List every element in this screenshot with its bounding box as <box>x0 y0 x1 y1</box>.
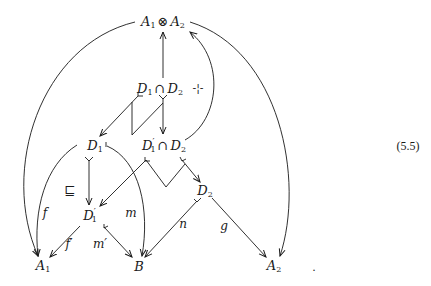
edge-d1-to-b <box>107 146 145 256</box>
edge-tensor-to-a2 <box>190 22 289 256</box>
node-b: B <box>134 260 144 273</box>
node-d2: D2 <box>197 184 213 199</box>
d1p-sub: 1 <box>92 215 97 224</box>
a1-sub: 1 <box>45 265 50 274</box>
mono-tail-d2-b <box>194 198 201 202</box>
label-g: g <box>220 219 228 233</box>
d1-base: D <box>87 138 97 153</box>
sqsubseteq-symbol: ⊑ <box>64 183 75 198</box>
label-f: f <box>43 206 47 220</box>
mono-tail-d1-d1p <box>85 157 93 161</box>
meet-top-right-sub: 2 <box>178 88 183 97</box>
meet-mid-operator: ∩ <box>156 138 171 153</box>
meet-mid-right-sub: 2 <box>181 145 186 154</box>
tensor-right: A <box>170 14 179 29</box>
a1-base: A <box>36 258 45 273</box>
label-n: n <box>179 217 187 231</box>
d2-sub: 2 <box>208 190 213 199</box>
a2-sub: 2 <box>276 265 281 274</box>
mono-tail-d1p-b <box>104 224 108 228</box>
tensor-operator: ⊗ <box>156 14 171 29</box>
edge-lower-zigzag <box>146 160 185 187</box>
label-m: m <box>125 206 136 220</box>
meet-top-right: D <box>167 81 177 96</box>
label-f-prime: f′ <box>65 237 72 251</box>
edge-meetmid-to-d2 <box>182 160 200 182</box>
trailing-period: . <box>313 260 316 275</box>
meet-top-operator: ∩ <box>153 81 168 96</box>
meet-mid-left-sub: 1 <box>150 145 155 154</box>
d1-sub: 1 <box>98 145 103 154</box>
node-a2: A2 <box>267 259 281 274</box>
node-meet-mid: D′1∩D2 <box>142 138 186 154</box>
node-tensor: A1⊗A2 <box>141 15 185 30</box>
a2-base: A <box>267 258 276 273</box>
meet-top-left: D <box>137 81 147 96</box>
pullback-mark: -¦- <box>192 82 203 95</box>
meet-top-left-sub: 1 <box>147 88 152 97</box>
node-meet-top: D1∩D2 <box>137 82 183 97</box>
equation-number: (5.5) <box>397 139 420 154</box>
tensor-left: A <box>141 14 150 29</box>
mono-tail-meetmid-d2 <box>180 157 186 161</box>
edge-meetmid-to-d1p <box>100 160 146 206</box>
edge-d2-to-b <box>145 201 197 257</box>
label-m-prime: m′ <box>93 237 107 251</box>
edge-d1p-to-b <box>104 227 132 257</box>
b-base: B <box>134 259 144 274</box>
node-d1: D1 <box>87 139 103 154</box>
meet-mid-right: D <box>170 138 180 153</box>
d2-base: D <box>197 183 207 198</box>
node-a1: A1 <box>36 259 50 274</box>
edge-zigzag <box>132 102 163 135</box>
edge-tensor-to-a1 <box>24 22 135 256</box>
tensor-right-sub: 2 <box>180 21 185 30</box>
node-d1-prime: D′1 <box>83 208 97 224</box>
